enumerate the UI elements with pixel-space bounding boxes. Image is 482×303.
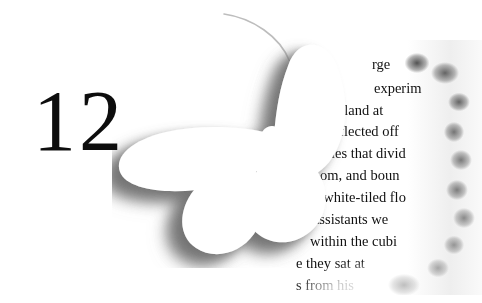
text-line: experim <box>374 80 422 97</box>
body-text-block: Dr.rgetheexperimth Leland atht reflected… <box>286 40 482 295</box>
butterfly-antenna <box>224 14 290 62</box>
text-line: ht reflected off <box>313 123 399 140</box>
text-line: th Leland at <box>314 102 383 119</box>
text-line: e they sat at <box>296 255 365 272</box>
text-line: the white-tiled flo <box>302 189 406 206</box>
text-line: ral assistants we <box>294 211 388 228</box>
text-line: rge <box>372 56 390 73</box>
text-line: Dr. <box>300 56 318 73</box>
text-line: ubicles that divid <box>306 145 406 162</box>
chapter-number: 12 <box>33 78 125 164</box>
text-line: room, and boun <box>308 167 399 184</box>
text-line: the <box>324 80 342 97</box>
text-line: within the cubi <box>310 233 397 250</box>
text-line: s from his <box>296 277 354 294</box>
book-page: Dr.rgetheexperimth Leland atht reflected… <box>0 0 482 303</box>
torn-page-fragment: Dr.rgetheexperimth Leland atht reflected… <box>286 40 482 295</box>
